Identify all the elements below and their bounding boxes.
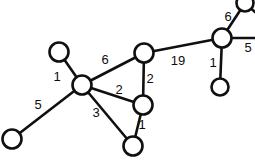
edge-weight-label: 1 — [138, 118, 145, 131]
graph-node — [237, 0, 254, 12]
edge-weight-label: 6 — [224, 10, 231, 23]
edge-weight-label: 2 — [146, 72, 153, 85]
edge-weight-label: 19 — [171, 54, 185, 67]
edge-weight-label: 2 — [115, 83, 122, 96]
graph-figure: 156232119165 — [0, 0, 255, 161]
edge-weight-label: 1 — [209, 56, 216, 69]
graph-node — [124, 137, 143, 156]
graph-node — [212, 79, 229, 96]
graph-node — [73, 76, 92, 95]
graph-node — [50, 43, 69, 62]
edge-weight-label: 5 — [34, 98, 41, 111]
graph-node — [134, 96, 153, 115]
edges-layer — [12, 3, 245, 146]
edge-weight-label: 5 — [244, 41, 251, 54]
graph-node — [135, 44, 154, 63]
edge-weight-label: 6 — [101, 53, 108, 66]
graph-node — [3, 130, 22, 149]
edge-weight-label: 1 — [53, 70, 60, 83]
graph-edge — [144, 38, 222, 53]
nodes-layer — [3, 0, 254, 156]
graph-edge — [12, 85, 82, 139]
graph-canvas — [0, 0, 255, 161]
graph-node — [213, 29, 232, 48]
edge-weight-label: 3 — [92, 106, 99, 119]
